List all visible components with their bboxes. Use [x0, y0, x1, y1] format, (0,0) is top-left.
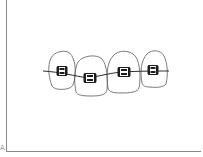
- corner-mark: A: [0, 144, 5, 152]
- bracket-3: [118, 68, 130, 77]
- bracket-4: [148, 66, 158, 75]
- braces-illustration: A: [0, 0, 203, 157]
- bracket-1: [57, 67, 67, 76]
- bracket-2: [84, 74, 96, 83]
- teeth-drawing: A: [0, 0, 203, 157]
